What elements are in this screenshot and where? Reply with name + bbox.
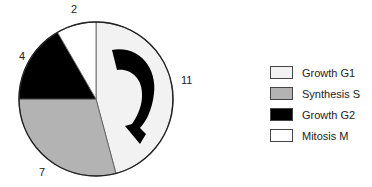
legend-label: Synthesis S xyxy=(302,88,360,100)
legend-item-growth-g2: Growth G2 xyxy=(270,104,360,125)
legend-item-growth-g1: Growth G1 xyxy=(270,62,360,83)
legend-label: Mitosis M xyxy=(302,130,348,142)
slice-label-synthesis: 7 xyxy=(39,166,45,178)
legend-swatch xyxy=(270,129,293,142)
legend-label: Growth G1 xyxy=(302,67,355,79)
legend: Growth G1 Synthesis S Growth G2 Mitosis … xyxy=(270,62,360,146)
legend-swatch xyxy=(270,108,293,121)
legend-swatch xyxy=(270,66,293,79)
legend-item-mitosis-m: Mitosis M xyxy=(270,125,360,146)
slice-label-growth-g2: 4 xyxy=(19,50,25,62)
legend-label: Growth G2 xyxy=(302,109,355,121)
legend-swatch xyxy=(270,87,293,100)
slice-label-mitosis: 2 xyxy=(71,3,77,15)
legend-item-synthesis-s: Synthesis S xyxy=(270,83,360,104)
slice-label-growth-g1: 11 xyxy=(181,74,192,86)
